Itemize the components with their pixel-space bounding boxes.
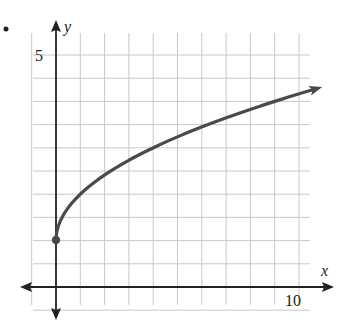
x-tick-label-10: 10 bbox=[285, 292, 301, 309]
y-tick-label-5: 5 bbox=[35, 47, 43, 64]
start-point bbox=[52, 236, 60, 244]
x-axis-label: x bbox=[320, 262, 328, 279]
graph: y x 5 10 bbox=[0, 0, 338, 336]
bullet-marker bbox=[4, 27, 9, 32]
y-axis-label: y bbox=[62, 18, 72, 36]
grid bbox=[32, 33, 310, 310]
